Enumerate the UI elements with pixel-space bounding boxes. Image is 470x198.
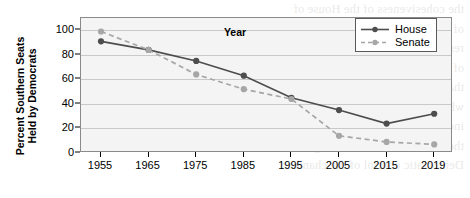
y-axis-title: Percent Southern Seats Held by Democrats [14, 26, 38, 166]
x-tick-label: 2015 [373, 159, 397, 171]
x-tick-label: 2005 [326, 159, 350, 171]
data-point-senate-2015 [384, 139, 390, 145]
x-tick-label: 1985 [231, 159, 255, 171]
x-tick-label: 1975 [183, 159, 207, 171]
data-point-senate-1995 [288, 96, 294, 102]
data-point-house-1955 [98, 38, 104, 44]
x-tick-mark [243, 152, 244, 157]
x-tick-mark [433, 152, 434, 157]
chart-figure: the cohesiveness of the House of of Repu… [0, 0, 470, 198]
x-tick-mark [100, 152, 101, 157]
data-point-house-2015 [384, 120, 390, 126]
series-line-house [101, 41, 434, 123]
x-tick-mark [386, 152, 387, 157]
x-tick-label: 1995 [278, 159, 302, 171]
y-tick-label: 20 [62, 121, 74, 133]
legend-swatch-house-icon [360, 22, 390, 35]
legend-swatch-senate-icon [360, 35, 390, 48]
x-tick-label: 1955 [88, 159, 112, 171]
y-tick-label: 80 [62, 48, 74, 60]
data-point-house-1975 [193, 58, 199, 64]
legend-item-house: House [360, 22, 430, 35]
y-axis-title-line-1: Percent Southern Seats [14, 26, 26, 166]
y-tick-label: 60 [62, 72, 74, 84]
y-tick-label: 40 [62, 97, 74, 109]
legend-label-senate: Senate [395, 36, 430, 48]
data-point-house-1985 [241, 73, 247, 79]
x-tick-mark [338, 152, 339, 157]
x-axis: 19551965197519851995200520152019 [0, 152, 470, 198]
data-point-senate-1965 [146, 47, 152, 53]
data-point-senate-1985 [241, 86, 247, 92]
data-point-senate-1975 [193, 71, 199, 77]
data-point-senate-2019 [431, 141, 437, 147]
data-point-house-2005 [336, 107, 342, 113]
data-point-house-2019 [431, 111, 437, 117]
chart-legend: House Senate [355, 18, 437, 52]
x-tick-label: 1965 [135, 159, 159, 171]
x-tick-label: 2019 [421, 159, 445, 171]
legend-item-senate: Senate [360, 35, 430, 48]
legend-label-house: House [395, 23, 427, 35]
x-tick-mark [290, 152, 291, 157]
y-axis-title-line-2: Held by Democrats [26, 26, 38, 166]
data-point-senate-2005 [336, 133, 342, 139]
x-tick-mark [195, 152, 196, 157]
x-tick-mark [148, 152, 149, 157]
